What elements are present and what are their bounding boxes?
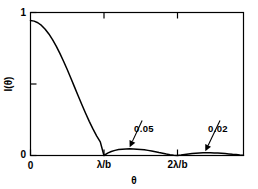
diffraction-intensity-chart: 0.05 0.02 1 0 0 λ/b 2λ/b θ I(θ) [0, 0, 258, 189]
x-tick-label-0: 0 [28, 160, 34, 171]
x-axis-title: θ [131, 175, 136, 186]
annotation-label-1: 0.02 [208, 123, 228, 134]
x-tick-label-2lambda-over-b: 2λ/b [167, 159, 187, 170]
y-axis-title: I(θ) [3, 77, 14, 92]
y-axis-ticks [31, 13, 37, 156]
x-axis-ticks-top [104, 13, 178, 19]
plot-frame [31, 13, 244, 156]
chart-canvas: 0.05 0.02 1 0 0 λ/b 2λ/b θ I(θ) [0, 0, 258, 189]
y-tick-label-0: 0 [20, 149, 26, 160]
annotation-label-0: 0.05 [134, 123, 154, 134]
x-tick-label-lambda-over-b: λ/b [97, 159, 111, 170]
intensity-curve [31, 21, 244, 156]
y-tick-label-1: 1 [20, 7, 26, 18]
